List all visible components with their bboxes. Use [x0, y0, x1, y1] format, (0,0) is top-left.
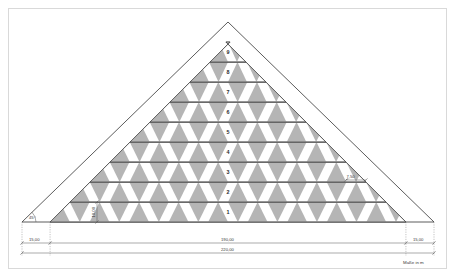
angle-label: 45° [29, 215, 36, 220]
tier-label-6: 6 [227, 109, 230, 115]
tier-label-2: 2 [227, 189, 230, 195]
tier-label-3: 3 [227, 169, 230, 175]
tier-label-9: 9 [227, 49, 230, 55]
tier-label-5: 5 [227, 129, 230, 135]
tier-label-8: 8 [227, 69, 230, 75]
tier-label-7: 7 [227, 89, 230, 95]
dimension-right-offset: 15,00 [413, 237, 424, 242]
dimension-total-width: 220,00 [221, 247, 234, 252]
dimension-left-offset: 15,00 [29, 237, 40, 242]
tier-label-4: 4 [227, 149, 230, 155]
tier-height-label: 10,00 [91, 206, 96, 217]
dimension-center-span: 190,00 [221, 237, 234, 242]
drawing-canvas: 12345678915,00190,0015,00220,0045°10,007… [0, 0, 455, 277]
tier-label-1: 1 [227, 209, 230, 215]
pyramid-cross-section: 12345678915,00190,0015,00220,0045°10,007… [0, 0, 455, 277]
step-inset-label: 7,50 [346, 174, 355, 179]
units-caption: Maße in m [403, 260, 424, 265]
